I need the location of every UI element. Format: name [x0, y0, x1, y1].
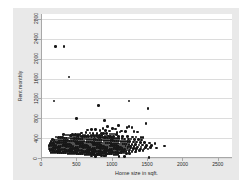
data-point [134, 151, 137, 154]
y-axis-title-text: Rent monthly [17, 71, 23, 102]
x-tick-label: 0 [40, 162, 43, 167]
x-axis-title: Home size in sqft. [41, 170, 232, 176]
y-tick-label: 2800 [34, 13, 39, 24]
y-tick-label: 800 [34, 114, 39, 122]
y-tick-label: 0 [34, 157, 39, 160]
data-point [97, 104, 100, 107]
data-point [154, 142, 157, 145]
data-point [119, 131, 122, 134]
data-point [138, 149, 141, 152]
data-point [131, 126, 134, 129]
data-point [128, 125, 131, 128]
data-point [128, 152, 131, 155]
data-point [145, 122, 148, 125]
data-point [149, 146, 152, 149]
data-point [114, 128, 117, 131]
x-tick-label: 500 [72, 162, 80, 167]
data-point [131, 150, 134, 153]
chart-screenshot: 040080012001600200024002800 Rent monthly… [0, 0, 251, 188]
data-point [90, 155, 93, 158]
y-tick-label: 2400 [34, 33, 39, 44]
data-point [117, 124, 120, 127]
data-point [163, 145, 166, 148]
y-axis-title: Rent monthly [15, 14, 25, 158]
data-point [133, 130, 136, 133]
data-point [54, 45, 57, 48]
x-tick-label: 1000 [106, 162, 117, 167]
data-point [106, 125, 109, 128]
y-tick-label: 400 [34, 134, 39, 142]
x-tick-label: 1500 [142, 162, 153, 167]
data-point [94, 128, 97, 131]
data-point [126, 126, 129, 129]
data-point [155, 147, 158, 150]
plot-region [41, 14, 232, 158]
data-point [108, 130, 111, 133]
y-tick-label: 2000 [34, 53, 39, 64]
data-point [124, 130, 127, 133]
x-tick-label: 2500 [212, 162, 223, 167]
data-point [128, 100, 131, 103]
data-point [75, 117, 78, 120]
x-tick-label: 2000 [177, 162, 188, 167]
data-point [63, 45, 66, 48]
scatter-points [42, 14, 232, 157]
data-point [147, 107, 150, 110]
data-point [90, 128, 93, 131]
y-tick-label: 1600 [34, 73, 39, 84]
data-point [53, 100, 56, 103]
x-axis-tick-labels: 05001000150020002500 [41, 158, 232, 170]
y-tick-label: 1200 [34, 93, 39, 104]
data-point [103, 119, 106, 122]
data-point [136, 131, 139, 134]
data-point [68, 76, 71, 79]
